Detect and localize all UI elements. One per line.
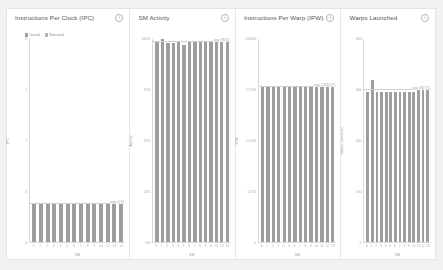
bar[interactable] <box>412 92 415 242</box>
bar[interactable] <box>320 87 323 242</box>
bar[interactable] <box>226 42 229 242</box>
bar[interactable] <box>193 42 196 242</box>
bar[interactable] <box>366 92 369 242</box>
bar[interactable] <box>188 42 191 242</box>
y-axis-tick: 25% <box>144 190 151 194</box>
bar-slot[interactable] <box>78 39 85 242</box>
bar[interactable] <box>299 87 302 242</box>
bar[interactable] <box>209 42 212 242</box>
x-axis-tick: 5 <box>64 244 71 252</box>
bar-slot[interactable] <box>118 39 125 242</box>
bar[interactable] <box>204 42 207 242</box>
bar[interactable] <box>46 204 50 242</box>
bar[interactable] <box>380 92 383 242</box>
bar[interactable] <box>426 90 429 242</box>
bar-slot[interactable] <box>330 39 335 242</box>
bar[interactable] <box>376 92 379 242</box>
y-axis-tick: 2 <box>25 139 27 143</box>
bar-slot[interactable] <box>425 39 430 242</box>
bar[interactable] <box>177 42 180 242</box>
bar[interactable] <box>403 92 406 242</box>
info-icon[interactable]: i <box>421 14 429 22</box>
bar[interactable] <box>106 204 110 242</box>
chart-title-warps_launched: Warps Launched <box>349 14 431 22</box>
bar[interactable] <box>331 87 334 242</box>
bar-slot[interactable] <box>38 39 45 242</box>
bar[interactable] <box>182 45 185 242</box>
bar[interactable] <box>161 39 164 242</box>
bar-slot[interactable] <box>51 39 58 242</box>
chart-title-sm_activity: SM Activity <box>138 14 231 22</box>
y-axis-tick: 400 <box>356 139 362 143</box>
bar-slot[interactable] <box>225 39 230 242</box>
y-axis-label-ipw: IPW <box>236 39 245 243</box>
bar[interactable] <box>172 43 175 242</box>
y-axis-label-warps_launched: Warps Launched <box>341 39 350 243</box>
bar[interactable] <box>422 88 425 242</box>
bar[interactable] <box>371 80 374 242</box>
x-axis-tick: 11 <box>104 244 111 252</box>
bar[interactable] <box>399 92 402 242</box>
bar-slot[interactable] <box>64 39 71 242</box>
plot-area-warps_launched: Warps Launched8006004002000avg: 597.71 <box>341 39 435 243</box>
bar[interactable] <box>394 92 397 242</box>
bar[interactable] <box>261 87 264 242</box>
bar[interactable] <box>326 87 329 242</box>
chart-panel-warps_launched: Warps LaunchediWarps Launched80060040020… <box>341 9 435 259</box>
bar[interactable] <box>119 203 123 242</box>
legend-item[interactable]: Executed <box>45 31 64 39</box>
bar[interactable] <box>408 92 411 242</box>
bar-slot[interactable] <box>44 39 51 242</box>
y-axis-tick: 800 <box>356 37 362 41</box>
bar[interactable] <box>92 204 96 242</box>
bar[interactable] <box>272 87 275 242</box>
bar[interactable] <box>86 204 90 242</box>
bar[interactable] <box>99 204 103 242</box>
bar[interactable] <box>32 204 36 242</box>
bar[interactable] <box>293 87 296 242</box>
bar[interactable] <box>72 204 76 242</box>
bar[interactable] <box>417 90 420 242</box>
bar[interactable] <box>166 43 169 242</box>
x-axis-tick: 13 <box>330 244 335 252</box>
bar[interactable] <box>385 92 388 242</box>
y-axis-label-text: IPC <box>6 138 10 144</box>
legend-item[interactable]: Issued <box>25 31 40 39</box>
bar[interactable] <box>266 87 269 242</box>
x-axis-tick: 13 <box>225 244 230 252</box>
bar-slot[interactable] <box>31 39 38 242</box>
y-axis-tick: 5,750 <box>247 190 256 194</box>
bar-slot[interactable] <box>111 39 118 242</box>
bar[interactable] <box>277 87 280 242</box>
bar[interactable] <box>155 42 158 242</box>
x-axis-ticks: 012345678910111213 <box>29 243 125 252</box>
info-icon[interactable]: i <box>221 14 229 22</box>
bar[interactable] <box>52 204 56 242</box>
bar-slot[interactable] <box>91 39 98 242</box>
y-axis-tick: 23,000 <box>246 37 256 41</box>
bar[interactable] <box>199 42 202 242</box>
bar-slot[interactable] <box>98 39 105 242</box>
bar-slot[interactable] <box>84 39 91 242</box>
x-axis-ticks: 012345678910111213 <box>258 243 337 252</box>
bar[interactable] <box>283 87 286 242</box>
bar[interactable] <box>39 204 43 242</box>
bar[interactable] <box>288 87 291 242</box>
bar[interactable] <box>220 42 223 242</box>
bar[interactable] <box>215 42 218 242</box>
bar[interactable] <box>315 87 318 242</box>
bar[interactable] <box>59 204 63 242</box>
x-axis-label: SM <box>258 252 337 259</box>
bar[interactable] <box>389 92 392 242</box>
bar[interactable] <box>79 204 83 242</box>
y-axis-ticks-ipw: 23,00017,25011,5005,7500 <box>245 39 258 243</box>
bar[interactable] <box>66 204 70 242</box>
bar[interactable] <box>112 203 116 242</box>
bar-slot[interactable] <box>58 39 65 242</box>
bar[interactable] <box>304 87 307 242</box>
x-axis-label: SM <box>152 252 231 259</box>
bar[interactable] <box>309 87 312 242</box>
bar-slot[interactable] <box>71 39 78 242</box>
legend-label: Executed <box>49 33 63 37</box>
bar-slot[interactable] <box>104 39 111 242</box>
